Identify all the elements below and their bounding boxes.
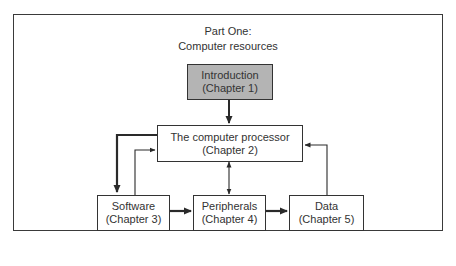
node-introduction-label: Introduction bbox=[201, 69, 258, 82]
node-peripherals-sub: (Chapter 4) bbox=[202, 213, 258, 226]
node-introduction: Introduction (Chapter 1) bbox=[187, 64, 273, 100]
node-peripherals: Peripherals (Chapter 4) bbox=[193, 195, 266, 231]
node-computer-processor: The computer processor (Chapter 2) bbox=[157, 125, 303, 162]
arrow-processor-to-software bbox=[117, 135, 157, 192]
arrow-software-to-processor bbox=[135, 150, 155, 195]
node-data-sub: (Chapter 5) bbox=[299, 213, 355, 226]
node-processor-label: The computer processor bbox=[170, 131, 289, 144]
node-software-sub: (Chapter 3) bbox=[106, 213, 162, 226]
node-data: Data (Chapter 5) bbox=[289, 195, 364, 231]
arrow-data-to-processor bbox=[305, 145, 327, 195]
node-software-label: Software bbox=[112, 200, 155, 213]
node-peripherals-label: Peripherals bbox=[202, 200, 258, 213]
node-data-label: Data bbox=[315, 200, 338, 213]
node-introduction-sub: (Chapter 1) bbox=[202, 82, 258, 95]
node-software: Software (Chapter 3) bbox=[97, 195, 170, 231]
node-processor-sub: (Chapter 2) bbox=[202, 144, 258, 157]
